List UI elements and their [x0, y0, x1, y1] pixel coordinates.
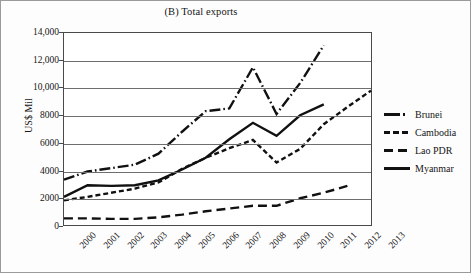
x-axis-tick-label: 2000	[78, 230, 99, 251]
x-axis-tick-label: 2001	[101, 230, 122, 251]
legend-label: Lao PDR	[415, 145, 453, 156]
legend-swatch-lao-pdr	[384, 149, 410, 152]
gridline	[64, 172, 371, 173]
x-axis-tick-label: 2010	[315, 230, 336, 251]
gridline	[64, 116, 371, 117]
chart-legend: Brunei Cambodia Lao PDR Myanmar	[384, 106, 471, 178]
x-axis-tick-label: 2007	[244, 230, 265, 251]
y-axis-tick-label: 10,000	[13, 82, 59, 92]
y-axis-tick-layer: US$ Mil 0200040006000800010,00012,00014,…	[11, 32, 59, 226]
series-line-brunei	[64, 45, 324, 179]
y-axis-tick-label: 4000	[13, 166, 59, 176]
plot-area	[63, 32, 372, 226]
legend-swatch-myanmar	[384, 167, 410, 170]
gridline	[64, 144, 371, 145]
legend-swatch-brunei	[384, 113, 410, 116]
series-line-myanmar	[64, 104, 324, 197]
y-axis-tick-label: 14,000	[13, 27, 59, 37]
x-axis-tick-label: 2013	[387, 230, 408, 251]
legend-item[interactable]: Brunei	[384, 106, 471, 123]
x-axis-tick-label: 2011	[339, 230, 359, 250]
y-axis-tick-label: 8000	[13, 110, 59, 120]
gridline	[64, 88, 371, 89]
y-axis-tick-label: 12,000	[13, 55, 59, 65]
x-axis-tick-label: 2005	[196, 230, 217, 251]
x-axis-tick-label: 2009	[291, 230, 312, 251]
gridline	[64, 199, 371, 200]
x-axis-tick-label: 2004	[173, 230, 194, 251]
x-axis-tick-label: 2012	[363, 230, 384, 251]
y-axis-tick-label: 0	[13, 221, 59, 231]
series-layer	[64, 33, 371, 225]
legend-label: Brunei	[415, 109, 442, 120]
x-axis-tick-label: 2006	[220, 230, 241, 251]
legend-label: Cambodia	[415, 127, 456, 138]
legend-label: Myanmar	[415, 163, 454, 174]
legend-item[interactable]: Cambodia	[384, 124, 471, 141]
series-line-lao-pdr	[64, 186, 347, 219]
chart-title: (B) Total exports	[1, 6, 401, 17]
chart-figure: (B) Total exports US$ Mil 02000400060008…	[0, 0, 471, 273]
legend-item[interactable]: Myanmar	[384, 160, 471, 177]
x-axis-tick-layer: 2000200120022003200420052006200720082009…	[63, 227, 372, 273]
x-axis-tick-label: 2003	[149, 230, 170, 251]
y-axis-tick-label: 6000	[13, 138, 59, 148]
gridline	[64, 61, 371, 62]
series-line-cambodia	[64, 91, 371, 201]
legend-swatch-cambodia	[384, 131, 410, 134]
x-axis-tick-label: 2008	[268, 230, 289, 251]
y-axis-tick-label: 2000	[13, 193, 59, 203]
legend-item[interactable]: Lao PDR	[384, 142, 471, 159]
x-axis-tick-label: 2002	[125, 230, 146, 251]
